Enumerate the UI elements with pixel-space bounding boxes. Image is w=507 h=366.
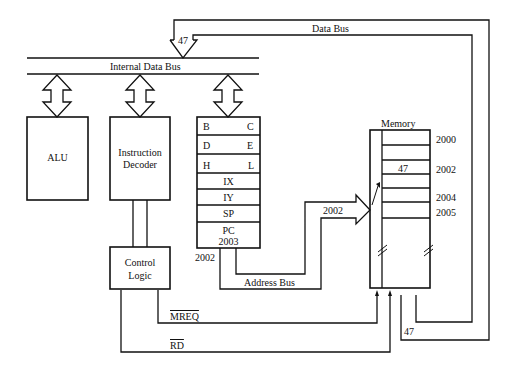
rd-line [121, 290, 390, 352]
memory-address-2005: 2005 [436, 207, 456, 218]
alu-label: ALU [27, 152, 88, 163]
address-value-out-label: 2002 [323, 205, 343, 216]
decoder-label-line2: Decoder [110, 159, 170, 170]
control-label-line2: Logic [110, 270, 170, 281]
memory-title: Memory [381, 118, 415, 129]
register-sp: SP [197, 208, 260, 219]
internal-data-bus-label: Internal Data Bus [110, 61, 181, 72]
register-iy: IY [197, 192, 260, 203]
address-bus-label: Address Bus [244, 277, 295, 288]
register-bidirectional-arrow [214, 75, 242, 117]
register-e: E [247, 140, 253, 151]
register-pc-value: 2003 [197, 236, 260, 247]
register-b: B [203, 121, 210, 132]
register-l: L [248, 160, 254, 171]
memory-address-2004: 2004 [436, 192, 456, 203]
memory-address-2000: 2000 [436, 134, 456, 145]
data-bus-value-out: 47 [404, 326, 414, 337]
register-ix: IX [197, 176, 260, 187]
register-c: C [247, 121, 254, 132]
register-h: H [203, 160, 210, 171]
memory-cell-value: 47 [398, 163, 408, 174]
decoder-label-line1: Instruction [110, 147, 170, 158]
register-pc: PC [197, 225, 260, 236]
control-label-line1: Control [110, 257, 170, 268]
control-logic-block [110, 247, 170, 289]
memory-address-2002: 2002 [436, 164, 456, 175]
data-bus-value-in: 47 [178, 35, 188, 46]
address-value-label: 2002 [195, 252, 215, 263]
decoder-bidirectional-arrow [126, 75, 154, 117]
mreq-signal-label: MREQ [170, 311, 199, 322]
alu-bidirectional-arrow [43, 75, 71, 117]
memory-block [370, 130, 430, 288]
register-d: D [203, 140, 210, 151]
data-bus-label: Data Bus [312, 23, 349, 34]
rd-signal-label: RD [170, 340, 184, 351]
